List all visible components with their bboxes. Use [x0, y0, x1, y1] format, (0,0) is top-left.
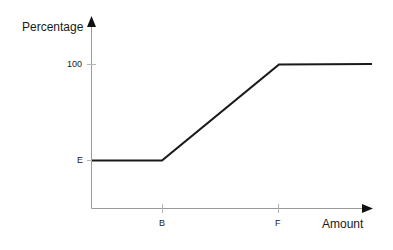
y-axis-arrow-icon [87, 16, 96, 27]
y-tick-label-e: E [77, 156, 83, 165]
x-tick-label-b: B [159, 219, 165, 228]
chart-svg [0, 0, 393, 250]
data-line [92, 64, 372, 161]
x-axis-title: Amount [322, 218, 363, 230]
chart-container: Percentage 100 E B F Amount [0, 0, 393, 250]
x-axis-arrow-icon [362, 204, 373, 213]
x-tick-label-f: F [275, 219, 281, 228]
y-tick-label-100: 100 [67, 60, 82, 69]
y-axis-title: Percentage [22, 21, 83, 33]
